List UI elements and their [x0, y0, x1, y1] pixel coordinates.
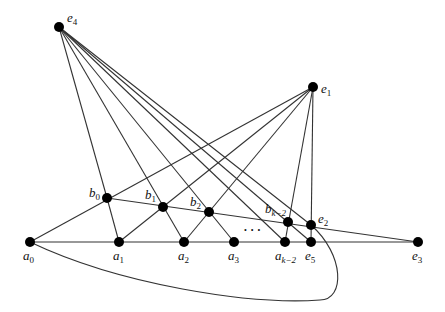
label-b2: b2 — [190, 194, 201, 211]
node-a0 — [25, 237, 35, 247]
label-b1: b1 — [145, 187, 156, 204]
node-e5 — [306, 237, 316, 247]
label-e1: e1 — [321, 81, 331, 98]
node-a3 — [229, 237, 239, 247]
node-layer — [25, 22, 423, 247]
node-e3 — [413, 237, 423, 247]
node-bk2 — [283, 217, 293, 227]
label-a2: a2 — [178, 248, 189, 265]
node-e2 — [306, 220, 316, 230]
label-e2: e2 — [318, 211, 328, 228]
label-e4: e4 — [67, 10, 78, 27]
node-b0 — [102, 193, 112, 203]
graph-diagram: e4e1b0b1b2bk−2e2a0a1a2a3ak−2e5e3 • • • — [0, 0, 445, 312]
node-ak2 — [280, 237, 290, 247]
label-ak2: ak−2 — [275, 248, 297, 265]
node-e4 — [54, 22, 64, 32]
edge-e1-a0 — [30, 87, 313, 242]
node-a2 — [179, 237, 189, 247]
label-a3: a3 — [228, 248, 240, 265]
edge-e1-e5 — [311, 87, 313, 242]
ellipsis-dots: • • • — [244, 226, 261, 235]
label-e5: e5 — [305, 248, 316, 265]
node-a1 — [114, 237, 124, 247]
label-a1: a1 — [113, 248, 124, 265]
edge-e4-ak2 — [59, 27, 285, 242]
node-e1 — [308, 82, 318, 92]
node-b1 — [158, 202, 168, 212]
edge-b0-a1 — [107, 198, 119, 242]
edge-e4-b0 — [59, 27, 107, 198]
edge-layer — [30, 27, 418, 242]
label-layer: e4e1b0b1b2bk−2e2a0a1a2a3ak−2e5e3 — [23, 10, 423, 265]
node-b2 — [204, 207, 214, 217]
label-a0: a0 — [23, 248, 35, 265]
label-b0: b0 — [89, 185, 101, 202]
label-e3: e3 — [412, 248, 423, 265]
